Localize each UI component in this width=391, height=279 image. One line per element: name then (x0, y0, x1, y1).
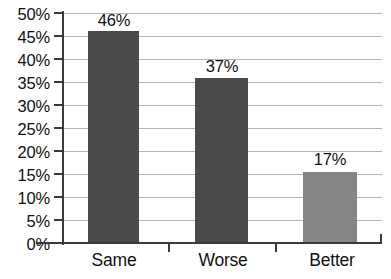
bar-better (303, 172, 357, 243)
bar-value-label: 37% (190, 58, 254, 75)
y-axis-tick (54, 104, 63, 106)
y-axis-tick (54, 127, 63, 129)
y-axis-tick (54, 58, 63, 60)
x-axis-line (36, 242, 382, 244)
y-axis-tick (54, 35, 63, 37)
y-axis-tick (54, 219, 63, 221)
x-axis-label-worse: Worse (184, 252, 262, 270)
bar-value-label: 46% (83, 12, 145, 29)
bar-value-label: 17% (298, 151, 362, 168)
bar-chart: 50% 45% 40% 35% 30% 25% 20% 15% 10% 5% 0… (0, 0, 391, 279)
x-axis-label-same: Same (78, 252, 150, 270)
y-axis-tick (54, 12, 63, 14)
bar-worse (195, 78, 248, 243)
bar-same (88, 31, 139, 243)
x-axis-label-better: Better (292, 252, 372, 270)
x-axis-tick (168, 244, 170, 252)
y-axis-tick (54, 173, 63, 175)
y-axis-tick (54, 150, 63, 152)
x-axis-tick (275, 244, 277, 252)
y-axis-tick (54, 242, 63, 244)
y-axis-tick (54, 196, 63, 198)
y-axis-tick (54, 81, 63, 83)
x-axis-endcap (380, 234, 382, 244)
